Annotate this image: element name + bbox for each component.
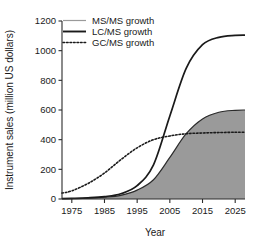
chart-legend: MS/MS growth LC/MS growth GC/MS growth	[63, 15, 154, 48]
y-tick-label: 400	[40, 134, 56, 145]
instrument-sales-chart: 020040060080010001200 197519851995200520…	[0, 0, 257, 244]
x-tick-label: 1985	[94, 205, 115, 216]
x-tick-label: 2005	[159, 205, 180, 216]
y-tick-label: 200	[40, 164, 56, 175]
x-axis-title: Year	[145, 227, 166, 238]
x-tick-label: 2025	[225, 205, 246, 216]
x-tick-label: 1995	[127, 205, 148, 216]
y-tick-label: 600	[40, 104, 56, 115]
legend-label-ms-ms: MS/MS growth	[92, 15, 154, 26]
legend-label-gc-ms: GC/MS growth	[92, 37, 154, 48]
y-axis-title: Instrument sales (million US dollars)	[4, 30, 15, 190]
y-tick-label: 1200	[35, 15, 56, 26]
y-tick-label: 800	[40, 75, 56, 86]
x-tick-label: 2015	[192, 205, 213, 216]
chart-figure: 020040060080010001200 197519851995200520…	[0, 0, 257, 244]
legend-label-lc-ms: LC/MS growth	[92, 26, 152, 37]
y-tick-label: 1000	[35, 45, 56, 56]
x-tick-label: 1975	[61, 205, 82, 216]
y-tick-label: 0	[51, 193, 56, 204]
